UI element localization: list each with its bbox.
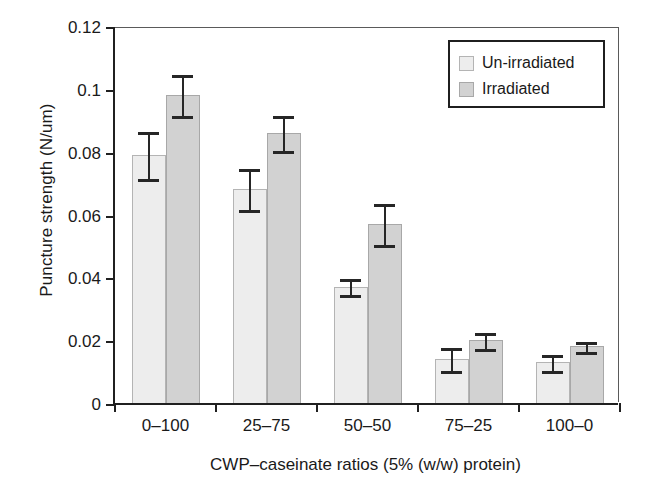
error-bar-cap-lower: [374, 245, 395, 248]
y-axis-tick-label: 0.12: [39, 19, 101, 36]
bar-un-irradiated: [132, 155, 166, 403]
error-bar-cap-lower: [576, 352, 597, 355]
legend: Un-irradiated Irradiated: [448, 40, 605, 108]
error-bar-stem: [249, 169, 251, 213]
x-axis-tick: [417, 403, 419, 412]
legend-item: Un-irradiated: [459, 50, 603, 76]
y-axis-tick-label: 0.04: [39, 270, 101, 287]
y-axis-tick-label: 0.06: [39, 208, 101, 225]
error-bar: [469, 333, 503, 352]
x-axis-tick: [518, 403, 520, 412]
error-bar: [435, 348, 469, 373]
error-bar-cap-lower: [273, 151, 294, 154]
error-bar: [233, 169, 267, 213]
y-axis-tick: [106, 278, 115, 280]
x-axis-tick: [215, 403, 217, 412]
error-bar: [334, 279, 368, 298]
x-axis-tick-label: 25–75: [212, 416, 322, 436]
error-bar-cap-lower: [441, 371, 462, 374]
x-axis-tick: [619, 403, 621, 412]
error-bar-cap-upper: [374, 204, 395, 207]
bar-irradiated: [267, 133, 301, 403]
error-bar-stem: [182, 75, 184, 119]
error-bar-cap-lower: [239, 210, 260, 213]
error-bar-cap-lower: [138, 179, 159, 182]
legend-swatch-un-irradiated: [459, 56, 474, 71]
error-bar: [267, 116, 301, 154]
error-bar-stem: [283, 116, 285, 154]
y-axis-tick: [106, 27, 115, 29]
y-axis-tick-label: 0: [39, 396, 101, 413]
error-bar-cap-lower: [475, 349, 496, 352]
error-bar-stem: [148, 132, 150, 182]
bar-un-irradiated: [233, 189, 267, 403]
y-axis-tick: [106, 216, 115, 218]
y-axis-tick-label: 0.1: [39, 82, 101, 99]
error-bar-cap-lower: [172, 116, 193, 119]
error-bar-cap-upper: [172, 75, 193, 78]
error-bar: [132, 132, 166, 182]
x-axis-tick-label: 50–50: [313, 416, 423, 436]
error-bar-cap-upper: [475, 333, 496, 336]
error-bar: [368, 204, 402, 248]
puncture-strength-bar-chart: Puncture strength (N/um) CWP–caseinate r…: [0, 0, 646, 495]
error-bar-stem: [384, 204, 386, 248]
x-axis-tick-label: 75–25: [414, 416, 524, 436]
error-bar-cap-upper: [542, 355, 563, 358]
error-bar-cap-upper: [576, 342, 597, 345]
y-axis-tick-label: 0.08: [39, 145, 101, 162]
bar-irradiated: [368, 224, 402, 403]
legend-label-irradiated: Irradiated: [482, 81, 550, 97]
y-axis-tick: [106, 341, 115, 343]
error-bar: [166, 75, 200, 119]
bar-un-irradiated: [334, 287, 368, 403]
x-axis-tick-label: 100–0: [515, 416, 625, 436]
legend-label-un-irradiated: Un-irradiated: [482, 55, 574, 71]
y-axis-tick: [106, 90, 115, 92]
error-bar-cap-upper: [441, 348, 462, 351]
bar-irradiated: [166, 95, 200, 403]
error-bar-cap-lower: [542, 371, 563, 374]
x-axis-tick-label: 0–100: [111, 416, 221, 436]
error-bar-cap-lower: [340, 295, 361, 298]
error-bar-cap-upper: [273, 116, 294, 119]
x-axis-tick: [316, 403, 318, 412]
x-axis-tick: [114, 403, 116, 412]
error-bar: [536, 355, 570, 374]
error-bar: [570, 342, 604, 355]
legend-swatch-irradiated: [459, 82, 474, 97]
error-bar-cap-upper: [340, 279, 361, 282]
error-bar-cap-upper: [138, 132, 159, 135]
y-axis-tick: [106, 153, 115, 155]
x-axis-title: CWP–caseinate ratios (5% (w/w) protein): [113, 455, 618, 475]
bar-irradiated: [570, 346, 604, 403]
legend-item: Irradiated: [459, 76, 603, 102]
y-axis-tick-label: 0.02: [39, 333, 101, 350]
error-bar-cap-upper: [239, 169, 260, 172]
